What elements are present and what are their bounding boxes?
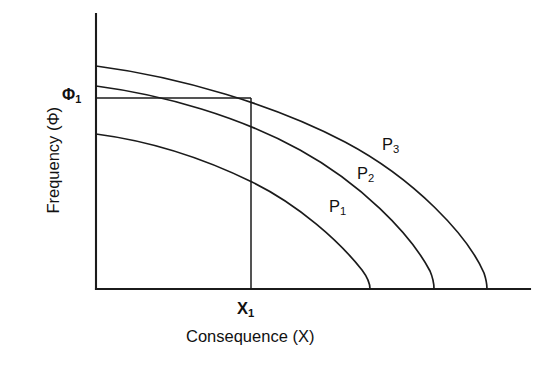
curve-label-p3-base: P xyxy=(382,135,393,153)
plot-canvas xyxy=(0,0,557,374)
curve-label-p1-subscript: 1 xyxy=(340,205,346,217)
y-axis-tick-phi1: Φ1 xyxy=(62,87,81,103)
curve-label-p1-base: P xyxy=(329,197,340,215)
curve-label-p1: P1 xyxy=(329,198,346,215)
x-axis-tick-x1-base: X xyxy=(237,299,248,317)
curve-label-p3: P3 xyxy=(382,136,399,153)
frequency-consequence-diagram: Frequency (Φ) Consequence (X) Φ1 X1 P1 P… xyxy=(0,0,557,374)
x-axis-tick-x1: X1 xyxy=(237,300,254,317)
curve-p2 xyxy=(96,86,434,289)
y-axis-tick-phi1-base: Φ xyxy=(62,86,75,103)
y-axis-tick-phi1-subscript: 1 xyxy=(75,93,81,105)
y-axis-label: Frequency (Φ) xyxy=(45,75,62,245)
curve-label-p3-subscript: 3 xyxy=(393,143,399,155)
curve-p3 xyxy=(96,66,487,289)
curve-label-p2: P2 xyxy=(357,165,374,182)
x-axis-tick-x1-subscript: 1 xyxy=(248,307,254,319)
curve-label-p2-subscript: 2 xyxy=(368,172,374,184)
curve-label-p2-base: P xyxy=(357,164,368,182)
x-axis-label: Consequence (X) xyxy=(186,328,314,345)
